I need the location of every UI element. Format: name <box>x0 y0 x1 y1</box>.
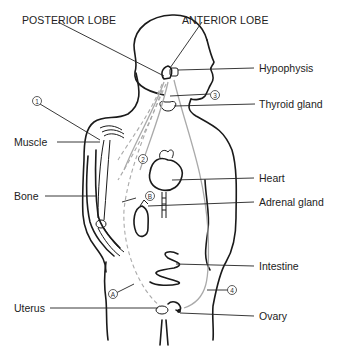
label-uterus: Uterus <box>14 303 45 314</box>
marker-3: 3 <box>211 91 220 100</box>
label-thyroid-gland: Thyroid gland <box>259 99 323 110</box>
body-outline <box>83 15 237 345</box>
heart-organ <box>150 150 183 218</box>
hormone-pathways <box>118 80 209 308</box>
label-adrenal-gland: Adrenal gland <box>259 197 324 208</box>
kidney-organ <box>134 200 148 236</box>
label-ovary: Ovary <box>259 311 287 322</box>
endocrine-diagram: 1 2 3 4 A B <box>0 0 338 357</box>
intestine-organ <box>150 252 180 285</box>
label-posterior-lobe: POSTERIOR LOBE <box>22 15 116 26</box>
marker-a: A <box>109 290 118 299</box>
svg-text:2: 2 <box>141 156 145 163</box>
arm-bones <box>96 126 124 256</box>
marker-1: 1 <box>33 97 42 106</box>
svg-text:4: 4 <box>230 287 234 294</box>
svg-text:A: A <box>111 291 116 298</box>
svg-text:B: B <box>148 193 152 200</box>
label-hypophysis: Hypophysis <box>259 63 313 74</box>
label-heart: Heart <box>259 173 285 184</box>
label-muscle: Muscle <box>14 137 47 148</box>
marker-4: 4 <box>228 286 237 295</box>
marker-2: 2 <box>139 155 148 164</box>
svg-text:1: 1 <box>35 98 39 105</box>
leader-lines <box>40 22 255 316</box>
label-intestine: Intestine <box>259 261 299 272</box>
label-bone: Bone <box>14 191 39 202</box>
label-anterior-lobe: ANTERIOR LOBE <box>182 15 268 26</box>
uterus-organ <box>156 302 181 314</box>
svg-text:3: 3 <box>213 92 217 99</box>
marker-b: B <box>146 192 155 201</box>
